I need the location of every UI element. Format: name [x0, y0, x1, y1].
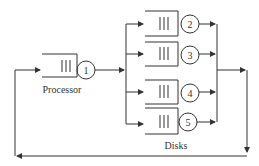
disk-server-id-2: 2 [188, 19, 193, 30]
disk-server-id-4: 4 [188, 88, 193, 99]
disks-label: Disks [165, 140, 188, 151]
disk-queue-4 [126, 80, 215, 104]
processor-queue [42, 54, 77, 77]
disk-queue-3 [126, 42, 215, 66]
queueing-network-diagram: 1 2 3 4 5 Processor Disks [0, 0, 259, 166]
disk-queue-2 [126, 11, 215, 36]
processor-label: Processor [43, 84, 83, 95]
disk-server-id-5: 5 [186, 117, 191, 128]
disk-queue-5 [126, 108, 215, 134]
feedback-loop [15, 70, 247, 156]
processor-server-id: 1 [84, 65, 89, 76]
disk-server-id-3: 3 [188, 50, 193, 61]
